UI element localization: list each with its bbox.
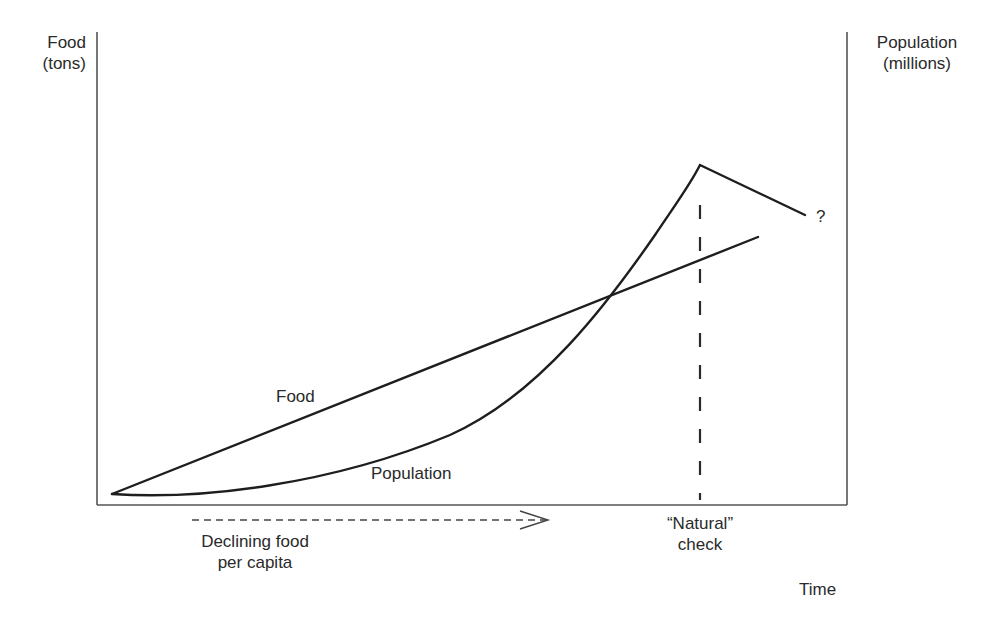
left-axis-label-line1: Food xyxy=(20,32,86,53)
right-axis-label-line1: Population xyxy=(852,32,982,53)
declining-food-line1: Declining food xyxy=(170,531,340,552)
food-line xyxy=(112,237,758,494)
natural-check-line1: “Natural” xyxy=(640,513,760,534)
declining-food-arrow xyxy=(192,511,548,529)
uncertain-outcome-label: ? xyxy=(816,206,825,227)
food-series-label: Food xyxy=(276,386,315,407)
left-axis-label-line2: (tons) xyxy=(20,53,86,74)
declining-food-label: Declining food per capita xyxy=(170,531,340,573)
declining-food-line2: per capita xyxy=(170,552,340,573)
natural-check-label: “Natural” check xyxy=(640,513,760,555)
left-axis-label: Food (tons) xyxy=(20,32,86,74)
right-axis-label: Population (millions) xyxy=(852,32,982,74)
x-axis-label: Time xyxy=(799,579,836,600)
malthus-diagram xyxy=(0,0,994,619)
natural-check-line2: check xyxy=(640,534,760,555)
right-axis-label-line2: (millions) xyxy=(852,53,982,74)
population-series-label: Population xyxy=(371,463,451,484)
axes xyxy=(97,32,847,505)
